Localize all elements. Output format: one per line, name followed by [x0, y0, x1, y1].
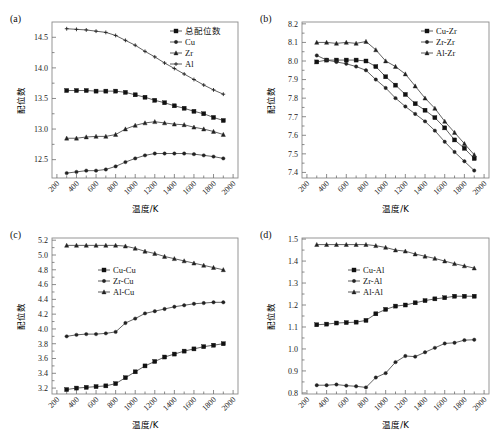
x-tick-label: 1400 [412, 179, 430, 197]
legend-label: 总配位数 [185, 26, 221, 36]
y-tick-label: 1.2 [288, 301, 298, 310]
series-Zr-Al [315, 338, 476, 389]
x-tick-label: 1000 [122, 395, 140, 413]
y-tick-label: 8.1 [288, 38, 298, 47]
y-tick-label: 1.1 [288, 323, 298, 332]
y-tick-label: 8.0 [288, 57, 298, 66]
x-tick-label: 1400 [161, 179, 179, 197]
y-tick-label: 1.3 [288, 279, 298, 288]
panel-label: (b) [260, 13, 272, 24]
x-tick-label: 1600 [431, 179, 449, 197]
legend-label: Al-Cu [113, 287, 135, 297]
y-tick-label: 4.4 [38, 295, 48, 304]
legend-label: Al-Zr [436, 48, 456, 58]
legend-label: Cu [185, 37, 196, 47]
series-Zr-Zr [315, 54, 476, 173]
y-axis-title: 配位数 [266, 303, 276, 330]
x-tick-label: 1200 [392, 179, 410, 197]
y-tick-label: 7.6 [288, 131, 298, 140]
y-tick-label: 4.8 [38, 266, 48, 275]
series-Al-Al [315, 242, 477, 270]
x-tick-label: 200 [46, 395, 61, 410]
series-line [67, 29, 224, 94]
x-tick-label: 1600 [181, 179, 199, 197]
legend-label: Zr-Cu [113, 276, 134, 286]
plot-svg: 7.47.57.67.77.87.98.08.18.22004006008001… [250, 0, 501, 216]
legend-label: Al [185, 59, 194, 69]
panel-label: (c) [10, 229, 21, 240]
x-tick-label: 2000 [471, 395, 489, 413]
chart-panel-d: (d)0.80.91.01.11.21.31.41.52004006008001… [250, 216, 501, 433]
x-tick-label: 1600 [181, 395, 199, 413]
x-tick-label: 2000 [220, 179, 238, 197]
x-tick-label: 600 [336, 179, 351, 194]
x-axis-title: 温度/K [382, 204, 409, 214]
y-tick-label: 5.0 [38, 251, 48, 260]
series-总配位数 [65, 89, 226, 123]
x-axis-title: 温度/K [132, 204, 159, 214]
series-Cu-Zr [315, 58, 476, 160]
x-tick-label: 200 [296, 179, 311, 194]
x-tick-label: 1000 [372, 395, 390, 413]
y-tick-label: 5.2 [38, 236, 48, 245]
x-tick-label: 1800 [200, 395, 218, 413]
legend: Cu-CuZr-CuAl-Cu [98, 265, 136, 297]
x-tick-label: 400 [316, 395, 331, 410]
series-Cu-Al [315, 294, 476, 327]
plot-frame [302, 238, 489, 394]
plot-svg: 0.80.91.01.11.21.31.41.52004006008001000… [250, 216, 501, 433]
panel-label: (a) [10, 13, 21, 24]
y-tick-label: 1.4 [288, 257, 298, 266]
x-tick-label: 1400 [161, 395, 179, 413]
plot-svg: 3.23.43.63.84.04.24.44.64.85.05.22004006… [0, 216, 250, 433]
x-tick-label: 1600 [431, 395, 449, 413]
legend-label: Cu-Cu [113, 265, 136, 275]
series-line [67, 91, 224, 121]
y-tick-label: 3.8 [38, 340, 48, 349]
legend-label: Zr-Al [363, 276, 383, 286]
legend-label: Zr-Zr [436, 37, 455, 47]
x-tick-label: 1400 [412, 395, 430, 413]
x-tick-label: 1800 [451, 179, 469, 197]
x-tick-label: 2000 [471, 179, 489, 197]
y-axis-title: 配位数 [266, 87, 276, 114]
series-Al [65, 27, 225, 96]
figure-container: (a)12.513.013.514.014.520040060080010001… [0, 0, 501, 433]
y-tick-label: 7.5 [288, 150, 298, 159]
y-tick-label: 3.2 [38, 384, 48, 393]
series-line [317, 55, 474, 170]
y-tick-label: 14.0 [34, 64, 48, 73]
series-Cu-Cu [65, 342, 226, 392]
x-tick-label: 400 [316, 179, 331, 194]
x-tick-label: 600 [86, 179, 101, 194]
plot-frame [52, 238, 238, 394]
y-tick-label: 0.9 [288, 367, 298, 376]
x-tick-label: 400 [66, 179, 81, 194]
x-tick-label: 400 [66, 395, 81, 410]
series-line [67, 302, 224, 336]
y-tick-label: 1.5 [288, 235, 298, 244]
y-tick-label: 8.2 [288, 20, 298, 29]
y-tick-label: 7.9 [288, 75, 298, 84]
y-tick-label: 0.8 [288, 389, 298, 398]
legend-label: Cu-Zr [436, 26, 457, 36]
y-axis-title: 配位数 [16, 87, 26, 114]
x-tick-label: 2000 [220, 395, 238, 413]
series-Zr [65, 120, 226, 141]
series-line [317, 296, 474, 325]
x-tick-label: 1200 [142, 179, 160, 197]
x-tick-label: 600 [336, 395, 351, 410]
x-axis-title: 温度/K [382, 420, 409, 430]
legend: Cu-AlZr-AlAl-Al [348, 265, 385, 297]
x-tick-label: 800 [356, 395, 371, 410]
panel-label: (d) [260, 229, 272, 240]
y-tick-label: 4.0 [38, 325, 48, 334]
x-tick-label: 1200 [392, 395, 410, 413]
y-tick-label: 14.5 [34, 33, 48, 42]
y-tick-label: 4.2 [38, 310, 48, 319]
y-tick-label: 7.7 [288, 113, 298, 122]
y-tick-label: 7.8 [288, 94, 298, 103]
x-tick-label: 1800 [200, 179, 218, 197]
series-line [317, 60, 474, 158]
y-tick-label: 1.0 [288, 345, 298, 354]
